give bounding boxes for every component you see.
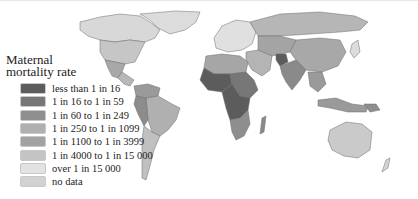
legend-label: over 1 in 15 000 [52,163,121,174]
region-australia [328,122,372,158]
legend-item: no data [6,175,153,188]
region-north-africa [204,54,248,74]
legend-item: 1 in 60 to 1 in 249 [6,109,153,122]
region-russia [250,12,368,36]
legend-swatch [20,96,46,107]
legend-item: 1 in 16 to 1 in 59 [6,95,153,108]
legend-label: less than 1 in 16 [52,83,120,94]
legend-swatch [20,136,46,147]
region-europe [214,20,256,52]
legend-label: 1 in 60 to 1 in 249 [52,110,129,121]
legend-swatch [20,163,46,174]
map-legend: Maternal mortality rate less than 1 in 1… [6,54,153,188]
legend-item: 1 in 4000 to 1 in 15 000 [6,148,153,161]
legend-label: 1 in 4000 to 1 in 15 000 [52,150,153,161]
region-new-zealand [382,158,390,172]
legend-label: 1 in 1100 to 1 in 3999 [52,136,144,147]
legend-label: 1 in 250 to 1 in 1099 [52,123,140,134]
legend-swatch [20,150,46,161]
legend-title: Maternal mortality rate [6,54,153,78]
legend-title-line2: mortality rate [6,66,153,78]
legend-label: 1 in 16 to 1 in 59 [52,96,124,107]
legend-label: no data [52,176,83,187]
region-madagascar [260,116,266,134]
region-southeast-asia [308,72,326,92]
region-japan [350,40,360,58]
legend-item: over 1 in 15 000 [6,162,153,175]
legend-swatch [20,83,46,94]
legend-swatch [20,123,46,134]
legend-item: 1 in 250 to 1 in 1099 [6,122,153,135]
legend-item: less than 1 in 16 [6,82,153,95]
region-indonesia [318,98,368,112]
legend-item: 1 in 1100 to 1 in 3999 [6,135,153,148]
legend-swatch [20,110,46,121]
legend-swatch [20,176,46,187]
